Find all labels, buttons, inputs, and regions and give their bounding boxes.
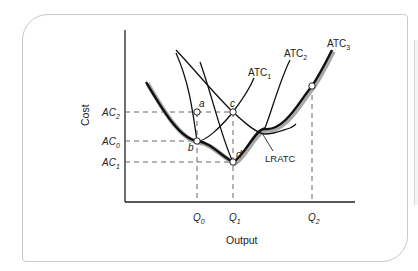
point-a — [194, 109, 200, 115]
label-atc3: ATC3 — [327, 38, 350, 51]
label-b: b — [188, 142, 194, 153]
label-atc1: ATC1 — [248, 67, 271, 80]
x-axis-title: Output — [226, 234, 258, 246]
point-c — [230, 109, 236, 115]
lratc-leader — [262, 133, 273, 151]
label-lratc: LRATC — [265, 153, 296, 164]
xtick-q1: Q1 — [229, 212, 241, 225]
points — [194, 83, 315, 165]
label-d: d — [236, 149, 242, 160]
lratc-shadow — [148, 52, 334, 164]
xtick-q0: Q0 — [193, 212, 205, 225]
ytick-ac2: AC2 — [101, 107, 120, 120]
label-a: a — [199, 98, 205, 109]
xtick-q2: Q2 — [308, 212, 320, 225]
point-b — [194, 138, 200, 144]
ytick-ac0: AC0 — [101, 136, 120, 149]
label-atc2: ATC2 — [284, 48, 307, 61]
y-axis-title: Cost — [79, 104, 91, 126]
label-c: c — [230, 98, 235, 109]
guide-lines — [125, 86, 312, 202]
lratc-curve — [146, 50, 332, 162]
point-atc3 — [309, 83, 315, 89]
atc1-curve — [176, 53, 254, 141]
ytick-ac1: AC1 — [101, 157, 120, 170]
